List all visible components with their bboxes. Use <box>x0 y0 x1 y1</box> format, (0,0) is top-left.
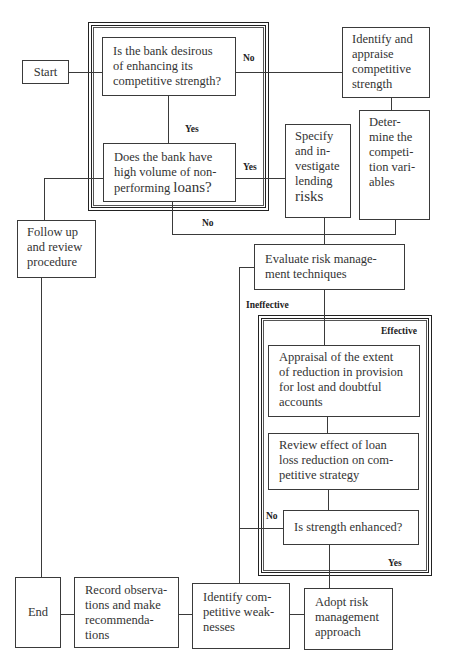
connector-ineffective-down <box>239 267 240 583</box>
connector-q1-no-to-identify <box>236 72 342 73</box>
node-q-desirous-label: Is the bank desirous of enhancing its co… <box>113 44 225 89</box>
edge-label-yes-3: Yes <box>388 558 402 568</box>
node-follow-up-label: Follow up and review procedure <box>27 225 86 270</box>
edge-label-no-3: No <box>266 511 278 521</box>
node-q-strength: Is strength enhanced? <box>283 510 419 545</box>
edge-label-no-2: No <box>202 218 214 228</box>
node-specify-risks: Specify and in- vestigate lending risks <box>285 124 351 218</box>
edge-label-yes-2: Yes <box>243 162 257 172</box>
connector-review-to-q3 <box>328 490 329 510</box>
connector-q2-to-follow <box>44 178 103 179</box>
node-evaluate: Evaluate risk manage- ment techniques <box>254 244 405 290</box>
connector-follow-vertical <box>44 178 45 220</box>
node-identify-weak-label: Identify com- petitive weak- nesses <box>203 590 279 635</box>
node-review-effect: Review effect of loan loss reduction on … <box>268 433 419 490</box>
connector-record-weak <box>179 614 192 615</box>
connector-q2-no-down <box>172 202 173 234</box>
node-q-desirous: Is the bank desirous of enhancing its co… <box>102 37 236 96</box>
node-record-label: Record observa- tions and make recommend… <box>85 583 168 643</box>
edge-label-ineffective: Ineffective <box>246 300 289 310</box>
node-identify-appraise: Identify and appraise competitive streng… <box>342 27 430 98</box>
node-identify-weak: Identify com- petitive weak- nesses <box>192 583 290 649</box>
node-determine-vars: Deter- mine the competi- tion vari- able… <box>359 110 430 220</box>
edge-label-yes-1: Yes <box>185 124 199 134</box>
node-start-label: Start <box>34 65 58 80</box>
connector-weak-adopt <box>290 614 304 615</box>
node-adopt: Adopt risk management approach <box>304 588 393 650</box>
edge-label-no-1: No <box>243 53 255 63</box>
node-adopt-label: Adopt risk management approach <box>315 595 382 640</box>
node-start: Start <box>22 60 69 84</box>
node-determine-vars-label: Deter- mine the competi- tion vari- able… <box>369 115 420 190</box>
node-follow-up: Follow up and review procedure <box>17 220 96 278</box>
connector-q3-no <box>239 528 283 529</box>
node-q-nonperforming-label: Does the bank have high volume of non- p… <box>114 150 216 195</box>
connector-evaluate-to-appraisal <box>324 290 325 345</box>
connector-follow-to-end <box>41 278 42 577</box>
connector-determine-down <box>395 220 396 234</box>
connector-specify-down <box>324 218 325 244</box>
node-evaluate-label: Evaluate risk manage- ment techniques <box>265 252 377 282</box>
connector-no-merge <box>172 234 396 235</box>
connector-appraisal-to-review <box>327 417 328 433</box>
connector-identify-to-determine <box>391 98 392 110</box>
node-appraisal-label: Appraisal of the extent of reduction in … <box>279 350 409 410</box>
node-identify-appraise-label: Identify and appraise competitive streng… <box>352 32 420 92</box>
node-end-label: End <box>28 605 48 620</box>
connector-q2-yes-to-specify <box>236 178 285 179</box>
node-q-strength-label: Is strength enhanced? <box>294 520 402 535</box>
node-review-effect-label: Review effect of loan loss reduction on … <box>279 438 408 483</box>
flowchart-canvas: Start Is the bank desirous of enhancing … <box>0 0 449 664</box>
connector-q1-yes-to-q2 <box>168 96 169 143</box>
connector-start-to-q1 <box>69 72 102 73</box>
edge-label-effective: Effective <box>381 326 417 336</box>
node-specify-risks-label: Specify and in- vestigate lending <box>295 129 341 189</box>
connector-q3-yes-to-adopt <box>329 545 330 588</box>
node-appraisal: Appraisal of the extent of reduction in … <box>268 345 420 417</box>
node-q-nonperforming: Does the bank have high volume of non- p… <box>103 143 236 202</box>
node-end: End <box>15 577 61 648</box>
node-record: Record observa- tions and make recommend… <box>74 577 179 648</box>
connector-end-record <box>61 614 74 615</box>
connector-evaluate-ineffective <box>239 267 254 268</box>
node-specify-risks-emphasis: risks <box>295 189 341 204</box>
node-q-nonperforming-emphasis: loans? <box>173 179 211 195</box>
